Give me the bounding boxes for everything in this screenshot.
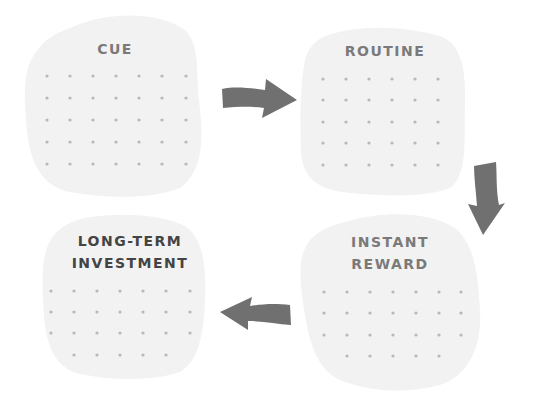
arrow-left-icon: [220, 297, 291, 330]
arrow-right-icon: [222, 79, 297, 118]
arrow-down-icon: [468, 162, 505, 235]
routine-label: ROUTINE: [320, 40, 450, 62]
cue-label: CUE: [60, 38, 170, 60]
instant-reward-label: INSTANT REWARD: [320, 231, 460, 275]
long-term-investment-label: LONG-TERM INVESTMENT: [50, 230, 210, 274]
habit-loop-diagram: CUE ROUTINE INSTANT REWARD LONG-TERM INV…: [0, 0, 534, 405]
diagram-graphics: [0, 0, 534, 405]
